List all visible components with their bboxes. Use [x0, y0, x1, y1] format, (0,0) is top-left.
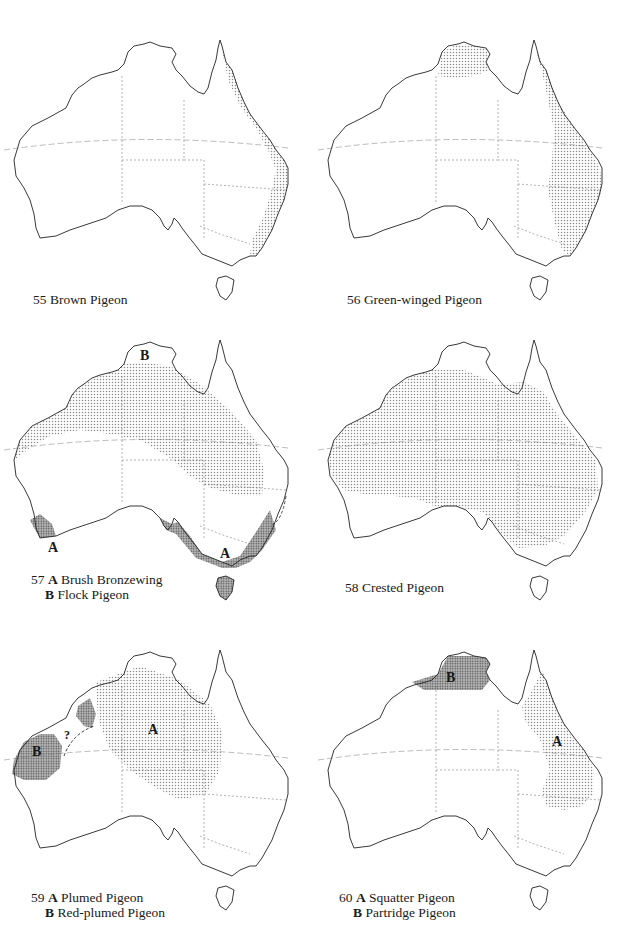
- map-panel-57: B A A 57 A Brush Bronzewing B Flock Pige…: [0, 300, 314, 610]
- australia-map: [314, 610, 628, 920]
- map-panel-56: 56 Green-winged Pigeon: [314, 0, 628, 310]
- australia-map: [314, 0, 628, 310]
- map-label-b: B: [446, 670, 455, 686]
- australia-map: [0, 0, 314, 310]
- map-panel-58: 58 Crested Pigeon: [314, 300, 628, 610]
- map-label-b: B: [140, 348, 149, 364]
- map-caption: 60 A Squatter Pigeon B Partridge Pigeon: [339, 890, 456, 920]
- map-panel-59: A B ? 59 A Plumed Pigeon B Red-plumed Pi…: [0, 610, 314, 920]
- map-panel-60: B A 60 A Squatter Pigeon B Partridge Pig…: [314, 610, 628, 920]
- map-label-a: A: [148, 722, 158, 738]
- australia-map: [314, 300, 628, 610]
- map-panel-55: 55 Brown Pigeon: [0, 0, 314, 310]
- australia-map: [0, 610, 314, 920]
- map-label-a-west: A: [48, 540, 58, 556]
- map-caption: 58 Crested Pigeon: [345, 580, 444, 595]
- map-caption: 59 A Plumed Pigeon B Red-plumed Pigeon: [31, 890, 165, 920]
- map-caption: 57 A Brush Bronzewing B Flock Pigeon: [31, 572, 163, 602]
- map-label-uncertain: ?: [64, 728, 70, 743]
- map-label-a-east: A: [220, 546, 230, 562]
- map-label-a: A: [552, 734, 562, 750]
- australia-map: [0, 300, 314, 610]
- map-label-b: B: [32, 744, 41, 760]
